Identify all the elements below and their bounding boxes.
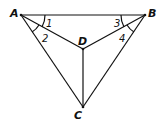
label-c: C (74, 109, 82, 121)
angle-arc-3 (121, 15, 124, 27)
geometry-diagram: A B D C 1 2 3 4 (0, 0, 167, 121)
angle-arc-1 (42, 15, 45, 27)
angle-label-4: 4 (119, 33, 125, 44)
label-b: B (148, 7, 156, 20)
point-c (82, 106, 85, 109)
point-b (144, 14, 147, 17)
label-d: D (78, 35, 87, 48)
angle-label-2: 2 (42, 33, 48, 44)
angle-arc-4 (127, 25, 134, 32)
label-a: A (9, 7, 19, 20)
point-a (20, 14, 23, 17)
angle-label-1: 1 (46, 18, 52, 29)
angle-arc-2 (32, 25, 39, 32)
angle-label-3: 3 (114, 18, 120, 29)
point-d (82, 48, 85, 51)
